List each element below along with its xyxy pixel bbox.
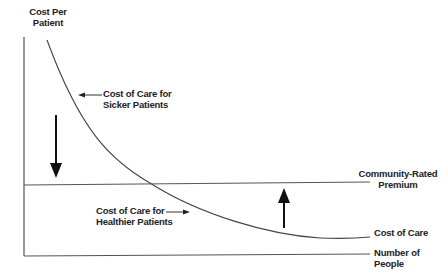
cost-of-care-label-text: Cost of Care xyxy=(374,227,428,238)
healthier-label-line2: Healthier Patients xyxy=(96,216,173,227)
premium-label: Community-Rated Premium xyxy=(352,168,444,190)
sicker-patients-label: Cost of Care for Sicker Patients xyxy=(103,88,172,110)
healthier-label-line1: Cost of Care for xyxy=(96,205,173,216)
sicker-pointer-arrow-icon xyxy=(78,93,102,98)
x-axis xyxy=(24,254,370,256)
premium-label-line1: Community-Rated xyxy=(352,168,444,179)
y-axis-label-line2: Patient xyxy=(26,17,70,28)
down-arrow-icon xyxy=(50,115,62,178)
sicker-label-line1: Cost of Care for xyxy=(103,88,172,99)
y-axis-label-line1: Cost Per xyxy=(26,6,70,17)
healthier-patients-label: Cost of Care for Healthier Patients xyxy=(96,205,173,227)
y-axis-label: Cost Per Patient xyxy=(26,6,70,28)
up-arrow-icon xyxy=(278,188,290,228)
cost-of-care-label: Cost of Care xyxy=(374,227,428,238)
premium-line xyxy=(24,182,370,185)
sicker-label-line2: Sicker Patients xyxy=(103,99,172,110)
x-axis-label-line2: People xyxy=(374,258,420,269)
premium-label-line2: Premium xyxy=(352,179,444,190)
x-axis-label: Number of People xyxy=(374,247,420,269)
x-axis-label-line1: Number of xyxy=(374,247,420,258)
